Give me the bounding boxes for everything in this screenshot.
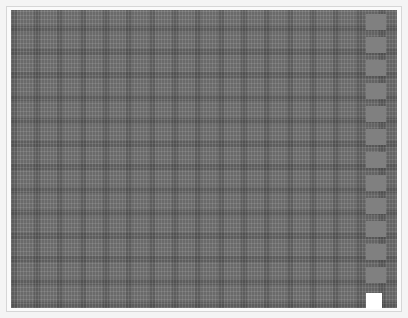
side-block [366, 198, 386, 214]
side-block [366, 267, 386, 283]
side-block [366, 60, 386, 76]
side-block [366, 129, 386, 145]
corner-box[interactable] [366, 293, 382, 309]
side-block [366, 106, 386, 122]
side-block [366, 175, 386, 191]
side-block [366, 221, 386, 237]
side-block [366, 244, 386, 260]
side-block [366, 83, 386, 99]
side-block [366, 37, 386, 53]
side-block [366, 14, 386, 30]
side-block [366, 152, 386, 168]
grid-canvas [11, 10, 397, 308]
side-strip [362, 10, 396, 308]
